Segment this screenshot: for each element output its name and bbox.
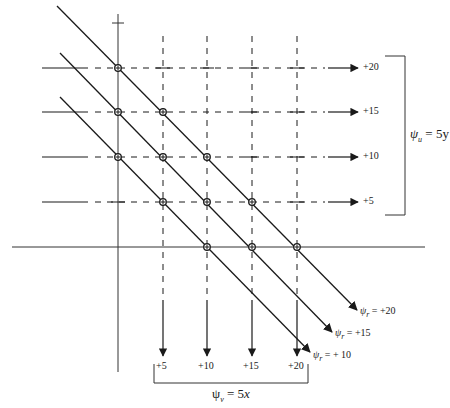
node: [115, 154, 122, 161]
node: [249, 199, 256, 206]
h-value-label: +10: [363, 150, 379, 161]
h-value-label: +5: [363, 195, 374, 206]
v-value-label: +5: [156, 360, 167, 371]
psi-r-label-15: ψr = +15: [335, 327, 371, 341]
psi-r-label-10: ψr = + 10: [313, 349, 351, 363]
psi-r-label-20: ψr = +20: [360, 305, 396, 319]
h-value-label: +15: [363, 105, 379, 116]
psi-v-bracket: [154, 364, 308, 383]
node: [204, 244, 211, 251]
node: [115, 65, 122, 72]
node: [160, 199, 167, 206]
v-value-label: +10: [198, 360, 214, 371]
psi-u-bracket: [385, 56, 405, 215]
node: [204, 154, 211, 161]
horizontal-streamlines: [42, 68, 358, 202]
node: [204, 199, 211, 206]
vertical-streamlines: [163, 36, 297, 356]
r-streamline-15: [60, 53, 332, 332]
psi-u-label: ψu = 5y: [410, 126, 449, 144]
v-value-label: +20: [288, 360, 304, 371]
h-value-label: +20: [363, 61, 379, 72]
node: [115, 109, 122, 116]
streamline-diagram: [0, 0, 450, 408]
node: [160, 109, 167, 116]
node: [160, 154, 167, 161]
v-value-label: +15: [243, 360, 259, 371]
node: [249, 244, 256, 251]
psi-v-label: ψv = 5x: [212, 386, 250, 404]
node: [294, 244, 301, 251]
